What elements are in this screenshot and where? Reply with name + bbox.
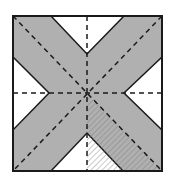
symmetry-diagram bbox=[0, 0, 171, 185]
diagram-canvas bbox=[0, 0, 171, 185]
